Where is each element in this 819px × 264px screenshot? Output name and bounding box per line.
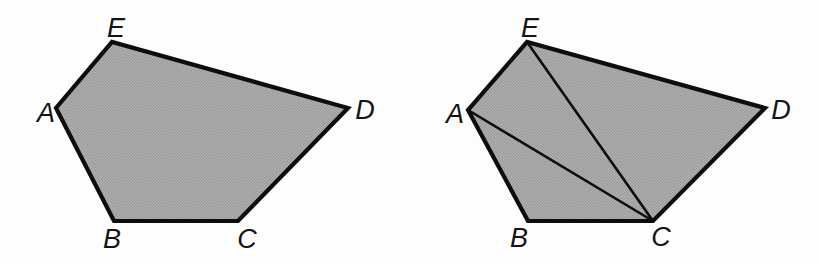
- vertex-label-A: A: [35, 98, 55, 128]
- figure-canvas: ABCDEABCDE: [0, 0, 819, 264]
- pentagon-diagram: ABCDEABCDE: [0, 0, 819, 264]
- vertex-label-E: E: [107, 13, 126, 43]
- pentagon-plain-outline: [56, 42, 348, 221]
- vertex-label-E: E: [521, 13, 540, 43]
- vertex-label-D: D: [355, 95, 375, 125]
- vertex-label-D: D: [771, 95, 791, 125]
- pentagon-plain: ABCDE: [35, 13, 375, 254]
- vertex-label-B: B: [510, 223, 528, 253]
- vertex-label-A: A: [444, 99, 464, 129]
- vertex-label-B: B: [103, 224, 121, 254]
- vertex-label-C: C: [651, 222, 671, 252]
- vertex-label-C: C: [237, 224, 257, 254]
- pentagon-triangulated-outline: [468, 42, 765, 221]
- pentagon-triangulated: ABCDE: [444, 13, 791, 253]
